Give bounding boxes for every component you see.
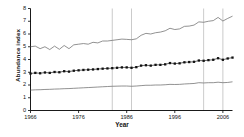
data-point-marker [121,66,123,68]
x-tick-label: 1996 [158,115,192,121]
data-point-marker [212,59,214,61]
data-point-marker [174,62,176,64]
data-point-marker [29,72,31,74]
x-tick-label: 1986 [110,115,144,121]
data-point-marker [49,72,51,74]
data-point-marker [159,64,161,66]
y-tick-label: 8 [12,6,26,12]
data-point-marker [106,67,108,69]
data-point-marker [164,63,166,65]
y-tick-label: 5 [12,44,26,50]
data-point-marker [44,71,46,73]
data-point-marker [207,59,209,61]
data-point-marker [178,62,180,64]
data-point-marker [53,71,55,73]
data-point-marker [231,56,233,58]
data-point-marker [82,69,84,71]
data-point-marker [87,69,89,71]
data-point-marker [193,61,195,63]
data-point-marker [39,72,41,74]
data-point-marker [92,68,94,70]
data-point-marker [68,70,70,72]
data-point-marker [198,59,200,61]
data-point-marker [145,64,147,66]
y-tick-label: 6 [12,31,26,37]
y-tick-label: 1 [12,95,26,101]
data-point-marker [140,64,142,66]
data-point-marker [222,59,224,61]
y-tick-label: 4 [12,57,26,63]
y-tick-label: 0 [12,108,26,114]
data-point-marker [202,60,204,62]
data-point-marker [111,67,113,69]
data-point-marker [73,70,75,72]
data-point-marker [58,71,60,73]
y-tick-label: 3 [12,70,26,76]
data-point-marker [34,72,36,74]
x-tick-label: 1966 [14,115,48,121]
data-point-marker [126,66,128,68]
data-point-marker [188,61,190,63]
abundance-index-chart: Abundance index Year 012345678 196619761… [0,0,244,137]
data-point-marker [116,67,118,69]
y-tick-label: 7 [12,18,26,24]
data-point-marker [154,64,156,66]
data-point-marker [217,57,219,59]
y-tick-label: 2 [12,82,26,88]
x-tick-label: 1976 [62,115,96,121]
data-point-marker [183,61,185,63]
data-point-marker [150,64,152,66]
x-tick-label: 2006 [206,115,240,121]
x-axis-label: Year [0,121,244,128]
data-point-marker [97,68,99,70]
data-point-marker [130,67,132,69]
data-point-marker [77,69,79,71]
data-point-marker [135,66,137,68]
data-point-marker [63,70,65,72]
data-point-marker [101,68,103,70]
data-point-marker [169,62,171,64]
data-point-marker [227,57,229,59]
